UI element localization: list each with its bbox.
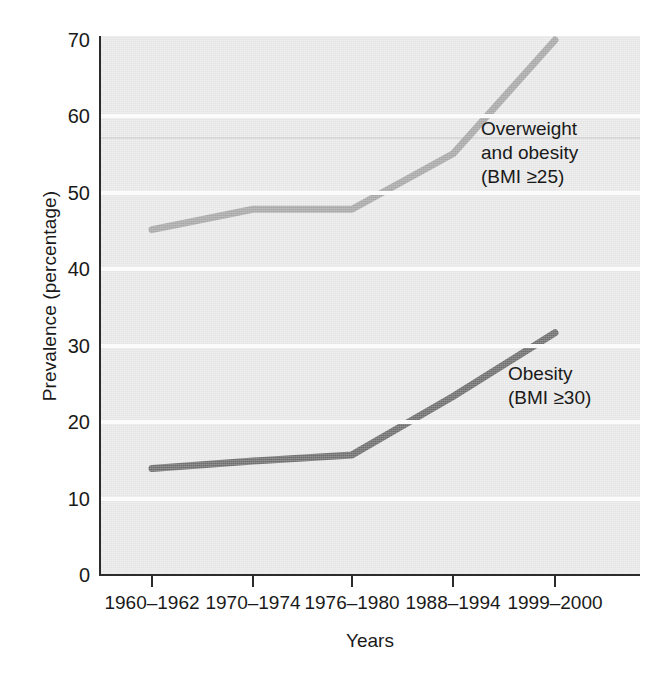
- series-annotation-overweight-and-obesity: Overweight and obesity (BMI ≥25): [481, 117, 578, 189]
- x-tick-label-1976-1980: 1976–1980: [304, 592, 399, 614]
- y-tick-label-20: 20: [13, 411, 99, 434]
- series-annotation-obesity: Obesity (BMI ≥30): [508, 362, 591, 410]
- x-tick-label-1999-2000: 1999–2000: [507, 592, 602, 614]
- series-line-obesity: [152, 333, 555, 469]
- x-tick-label-1988-1994: 1988–1994: [405, 592, 500, 614]
- y-tick-label-0: 0: [13, 564, 99, 587]
- gridline-30: [100, 344, 640, 348]
- x-tick-mark-1970-1974: [252, 576, 254, 587]
- gridline-50: [100, 191, 640, 195]
- gridline-40: [100, 267, 640, 271]
- prevalence-line-chart: Prevalence (percentage) 70 60 50 40 30 2…: [0, 0, 659, 677]
- x-axis-title: Years: [100, 630, 640, 652]
- y-tick-label-10: 10: [13, 488, 99, 511]
- y-axis-line: [99, 36, 101, 576]
- y-tick-label-30: 30: [13, 335, 99, 358]
- x-tick-mark-1999-2000: [554, 576, 556, 587]
- y-axis-tick-labels: 70 60 50 40 30 20 10 0: [0, 0, 99, 677]
- x-tick-label-1960-1962: 1960–1962: [104, 592, 199, 614]
- y-tick-label-60: 60: [13, 105, 99, 128]
- x-tick-label-1970-1974: 1970–1974: [205, 592, 300, 614]
- gridline-10: [100, 497, 640, 501]
- gridline-20: [100, 420, 640, 424]
- y-tick-label-50: 50: [13, 182, 99, 205]
- x-tick-mark-1960-1962: [151, 576, 153, 587]
- x-tick-mark-1988-1994: [452, 576, 454, 587]
- x-tick-mark-1976-1980: [351, 576, 353, 587]
- x-axis-line: [99, 574, 640, 576]
- y-tick-label-70: 70: [13, 29, 99, 52]
- y-tick-label-40: 40: [13, 258, 99, 281]
